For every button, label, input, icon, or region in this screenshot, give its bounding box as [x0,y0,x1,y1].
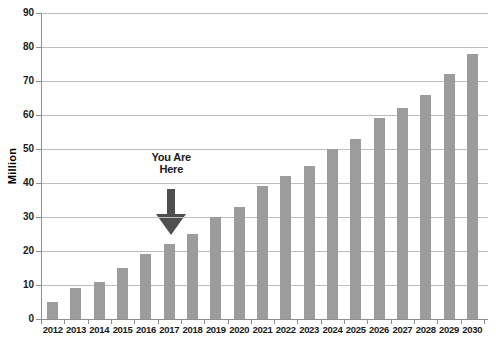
bar-2013 [70,288,81,319]
x-axis-label-2030: 2030 [458,324,486,335]
gridline [41,81,488,82]
y-axis-label-30: 30 [8,211,34,222]
bar-2022 [280,176,291,319]
bar-2030 [467,54,478,319]
bar-2021 [257,186,268,319]
bar-2027 [397,108,408,319]
y-axis-title: Million [6,130,18,202]
annotation-text: You Are Here [126,151,216,175]
bar-2012 [47,302,58,319]
bar-2020 [234,207,245,319]
y-axis-line [41,13,42,319]
bar-2017 [164,244,175,319]
x-axis-line [41,319,488,320]
arrow-stem [167,189,175,214]
y-axis-label-20: 20 [8,245,34,256]
bar-2016 [140,254,151,319]
y-axis-label-10: 10 [8,279,34,290]
bar-2028 [420,95,431,319]
annotation-line-1: You Are [126,151,216,163]
gridline [41,13,488,14]
y-axis-label-90: 90 [8,7,34,18]
y-axis-label-0: 0 [8,313,34,324]
population-bar-chart: Million You Are Here 0102030405060708090… [0,0,496,348]
bar-2024 [327,149,338,319]
annotation-line-2: Here [126,163,216,175]
y-axis-label-80: 80 [8,41,34,52]
bar-2025 [350,139,361,319]
gridline [41,47,488,48]
bar-2026 [374,118,385,319]
you-are-here-annotation: You Are Here [126,151,216,175]
y-axis-label-40: 40 [8,177,34,188]
y-axis-label-60: 60 [8,109,34,120]
y-axis-label-50: 50 [8,143,34,154]
bar-2023 [304,166,315,319]
bar-2019 [210,217,221,319]
bar-2014 [94,282,105,319]
bar-2018 [187,234,198,319]
bar-2029 [444,74,455,319]
bar-2015 [117,268,128,319]
y-axis-label-70: 70 [8,75,34,86]
